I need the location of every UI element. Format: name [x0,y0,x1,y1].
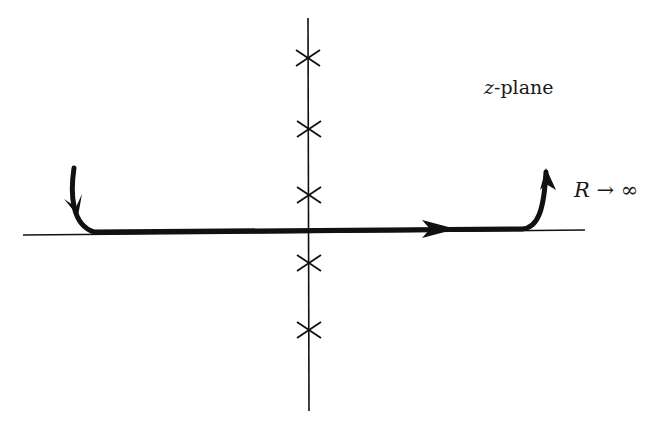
z-plane-diagram [0,0,668,433]
z-plane-label: z-plane [484,76,553,98]
radius-limit-label: R → ∞ [574,178,638,202]
imaginary-axis [308,18,309,411]
